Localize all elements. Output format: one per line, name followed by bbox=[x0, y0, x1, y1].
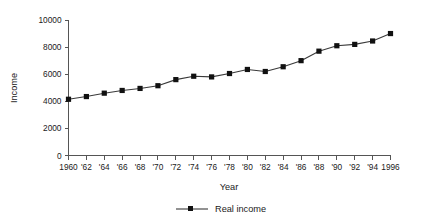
y-axis-title: Income bbox=[9, 73, 19, 103]
y-tick-label: 8000 bbox=[43, 42, 62, 52]
x-tick-label: '94 bbox=[367, 162, 378, 172]
x-tick-label: '82 bbox=[260, 162, 271, 172]
line-chart: 0200040006000800010000 1960'62'64'66'68'… bbox=[0, 0, 422, 224]
chart-canvas: 0200040006000800010000 1960'62'64'66'68'… bbox=[0, 0, 422, 224]
data-point-marker bbox=[263, 69, 268, 74]
x-tick-label: 1996 bbox=[381, 162, 400, 172]
x-tick-label: '88 bbox=[314, 162, 325, 172]
x-tick-label: '62 bbox=[81, 162, 92, 172]
x-tick-label: '70 bbox=[153, 162, 164, 172]
data-point-marker bbox=[137, 86, 142, 91]
data-point-marker bbox=[209, 74, 214, 79]
data-point-marker bbox=[316, 49, 321, 54]
x-axis-title: Year bbox=[220, 182, 239, 192]
data-point-marker bbox=[120, 88, 125, 93]
data-point-marker bbox=[84, 94, 89, 99]
x-tick-label: '92 bbox=[349, 162, 360, 172]
series-line-real-income bbox=[69, 34, 391, 100]
x-tick-label: '84 bbox=[278, 162, 289, 172]
data-point-marker bbox=[191, 74, 196, 79]
data-point-marker bbox=[334, 43, 339, 48]
series-group bbox=[66, 31, 393, 102]
y-tick-label: 6000 bbox=[43, 69, 62, 79]
data-point-marker bbox=[155, 83, 160, 88]
x-tick-label: '90 bbox=[331, 162, 342, 172]
data-point-marker bbox=[388, 31, 393, 36]
data-point-marker bbox=[102, 91, 107, 96]
chart-legend: Real income bbox=[176, 204, 266, 214]
legend-label-real-income: Real income bbox=[215, 204, 266, 214]
x-tick-label: '80 bbox=[242, 162, 253, 172]
data-point-marker bbox=[227, 71, 232, 76]
y-tick-label: 2000 bbox=[43, 123, 62, 133]
y-tick-group: 0200040006000800010000 bbox=[38, 15, 68, 161]
y-tick-label: 0 bbox=[57, 151, 62, 161]
x-tick-label: '74 bbox=[188, 162, 199, 172]
x-tick-label: '68 bbox=[135, 162, 146, 172]
x-tick-label: '72 bbox=[170, 162, 181, 172]
x-tick-label: '66 bbox=[117, 162, 128, 172]
data-point-marker bbox=[298, 58, 303, 63]
data-point-marker bbox=[370, 38, 375, 43]
x-tick-label: '86 bbox=[296, 162, 307, 172]
data-point-marker bbox=[66, 97, 71, 102]
data-point-marker bbox=[281, 64, 286, 69]
data-point-marker bbox=[173, 77, 178, 82]
x-tick-label: '64 bbox=[99, 162, 110, 172]
legend-marker-square-icon bbox=[188, 206, 193, 211]
y-tick-label: 4000 bbox=[43, 96, 62, 106]
x-tick-label: 1960 bbox=[59, 162, 78, 172]
x-tick-label: '76 bbox=[206, 162, 217, 172]
x-tick-group: 1960'62'64'66'68'70'72'74'76'78'80'82'84… bbox=[59, 156, 400, 172]
x-tick-label: '78 bbox=[224, 162, 235, 172]
data-point-marker bbox=[245, 67, 250, 72]
data-point-marker bbox=[352, 42, 357, 47]
y-tick-label: 10000 bbox=[38, 15, 61, 25]
